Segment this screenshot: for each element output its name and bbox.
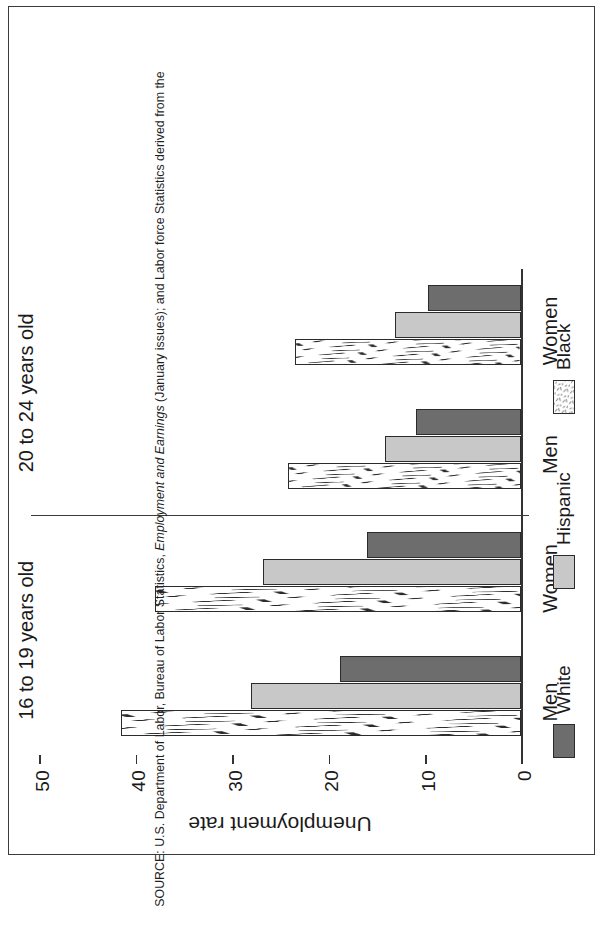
axis-tick (425, 755, 427, 764)
axis-tick-label: 0 (514, 770, 536, 804)
legend-label: Black (553, 324, 575, 370)
value-axis-line (521, 269, 523, 764)
bar-hispanic-20-to-24-years-old-women (395, 312, 521, 338)
axis-tick-label: 10 (418, 770, 440, 804)
axis-tick (329, 755, 331, 764)
bar-black-20-to-24-years-old-men (288, 463, 521, 489)
dash-hatch-fill (296, 340, 520, 364)
source-prefix: SOURCE: U.S. Department of Labor, Bureau… (153, 551, 167, 907)
legend-item-white[interactable]: White (553, 665, 575, 758)
source-note: SOURCE: U.S. Department of Labor, Bureau… (153, 7, 169, 907)
axis-tick-label: 40 (128, 770, 150, 804)
legend-swatch-white-icon (553, 724, 575, 758)
legend-label: White (553, 665, 575, 714)
legend-swatch-black-icon (553, 380, 575, 414)
legend-label: Hispanic (553, 472, 575, 545)
bar-hispanic-16-to-19-years-old-women (263, 559, 521, 585)
bar-white-16-to-19-years-old-women (367, 532, 521, 558)
group-label: 16 to 19 years old (15, 510, 38, 770)
axis-tick (136, 755, 138, 764)
plot-area: Unemployment rate 01020304050 MenWomenMe… (41, 269, 523, 764)
bar-white-20-to-24-years-old-men (416, 409, 521, 435)
axis-tick-label: 50 (32, 770, 54, 804)
dash-hatch-fill (156, 587, 520, 611)
group-label: 20 to 24 years old (15, 263, 38, 523)
axis-tick (521, 755, 523, 764)
bar-black-20-to-24-years-old-women (295, 339, 521, 365)
axis-tick-label: 20 (321, 770, 343, 804)
legend-swatch-hispanic-icon (553, 555, 575, 589)
legend-item-black[interactable]: Black (553, 324, 575, 414)
bar-hispanic-16-to-19-years-old-men (251, 683, 521, 709)
dash-hatch-fill (289, 464, 520, 488)
source-publication: Employment and Earnings (153, 405, 167, 550)
bar-black-16-to-19-years-old-women (155, 586, 521, 612)
figure-page: Unemployment rate 01020304050 MenWomenMe… (0, 0, 609, 929)
bar-white-20-to-24-years-old-women (428, 285, 521, 311)
figure-frame: Unemployment rate 01020304050 MenWomenMe… (8, 6, 595, 855)
bar-white-16-to-19-years-old-men (340, 656, 521, 682)
axis-tick (232, 755, 234, 764)
chart-stage: Unemployment rate 01020304050 MenWomenMe… (11, 20, 577, 856)
group-separator (31, 515, 529, 516)
chart-legend: WhiteHispanicBlack (549, 269, 583, 764)
dash-hatch-fill (554, 381, 574, 413)
bar-black-16-to-19-years-old-men (121, 710, 521, 736)
source-suffix: (January issues); and Labor force Statis… (153, 71, 167, 405)
axis-tick (39, 755, 41, 764)
legend-item-hispanic[interactable]: Hispanic (553, 472, 575, 589)
dash-hatch-fill (122, 711, 520, 735)
bar-hispanic-20-to-24-years-old-men (385, 436, 521, 462)
axis-tick-label: 30 (225, 770, 247, 804)
